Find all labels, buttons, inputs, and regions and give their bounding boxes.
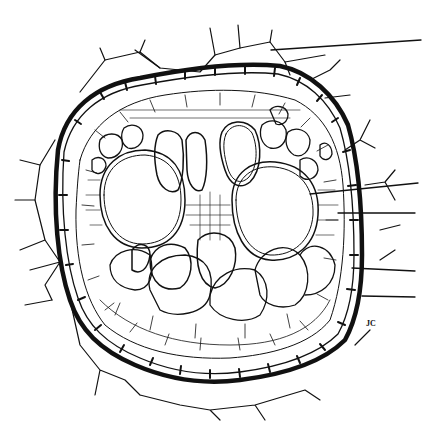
diagram-svg: JC xyxy=(0,0,440,427)
outer-cortex-cells xyxy=(15,25,400,420)
leader-line-2 xyxy=(310,183,418,194)
artist-signature: JC xyxy=(366,319,376,328)
leader-line-5 xyxy=(362,296,415,297)
leader-line-1 xyxy=(271,40,421,50)
xylem-vessels xyxy=(92,107,332,290)
vessel-top-center xyxy=(220,122,260,186)
lower-parenchyma xyxy=(110,246,335,320)
vessel-large-left xyxy=(100,150,185,248)
root-cross-section-diagram: JC xyxy=(0,0,440,427)
